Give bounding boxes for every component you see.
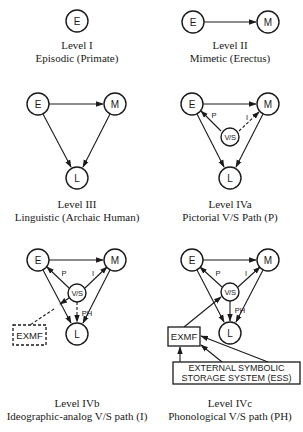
edge-exmf-to-vs [184,297,221,327]
svg-text:E: E [189,255,196,266]
svg-text:E: E [35,255,42,266]
node-e: E [27,93,49,115]
node-m: M [257,93,279,115]
svg-text:M: M [264,255,272,266]
panel-subtitle: Phonological V/S path (PH) [168,410,292,423]
svg-text:M: M [111,99,119,110]
node-e: E [181,249,203,271]
panel-level-3: E M L Level III Linguistic (Archaic Huma… [15,93,140,224]
edge-label-p: P [215,269,220,278]
svg-text:V/S: V/S [71,289,82,298]
node-e: E [27,249,49,271]
panel-title: Level I [61,39,93,51]
exmf-box-dashed: EXMF [13,325,46,345]
svg-text:M: M [264,17,272,28]
svg-text:L: L [227,173,233,184]
panel-title: Level IVb [55,397,100,409]
edge-label-p: P [61,269,66,278]
panel-title: Level III [58,198,97,210]
svg-text:M: M [264,99,272,110]
panel-subtitle: Linguistic (Archaic Human) [15,211,140,224]
node-m: M [104,93,126,115]
node-m: M [104,249,126,271]
edge-label-i: I [245,269,247,278]
panel-level-4a: P I E M V/S L Level IVa Pictorial V/S Pa… [181,93,279,224]
edge-label-i: I [92,269,94,278]
svg-text:EXMF: EXMF [16,330,43,341]
svg-text:E: E [189,99,196,110]
panel-title: Level IVc [208,397,252,409]
node-vs: V/S [221,128,239,146]
panel-level-2: E M Level II Mimetic (Erectus) [182,11,279,65]
edge-e-to-l [197,114,224,167]
panel-subtitle: Ideographic-analog V/S path (I) [7,410,148,423]
edge-label-ph: PH [235,306,245,315]
edge-ess-to-exmf-2 [201,345,222,362]
edge-label-i: I [246,113,248,122]
edge-exmf-link [30,309,54,325]
edge-label-p: P [211,111,216,120]
edge-e-to-l [43,114,71,167]
node-l: L [219,167,241,189]
panel-level-4b: P I PH E M V/S L EXMF Level IVb Ideograp… [7,249,148,423]
svg-text:M: M [111,255,119,266]
node-m: M [257,249,279,271]
svg-text:E: E [35,99,42,110]
svg-text:V/S: V/S [224,133,235,142]
svg-text:V/S: V/S [224,288,235,297]
node-l: L [66,167,88,189]
edge-label-ph: PH [82,309,92,318]
svg-text:STORAGE SYSTEM (ESS): STORAGE SYSTEM (ESS) [182,373,292,383]
node-e: E [182,11,204,33]
svg-text:E: E [190,17,197,28]
edge-vs-to-exmf-head [60,298,69,304]
edge-m-to-l [236,114,263,167]
node-e: E [66,10,88,32]
svg-text:EXTERNAL SYMBOLIC: EXTERNAL SYMBOLIC [188,363,285,373]
node-l: L [66,323,88,345]
panel-title: Level II [212,39,247,51]
node-m: M [257,11,279,33]
edge-e-to-l [43,270,71,323]
panel-subtitle: Mimetic (Erectus) [190,52,271,65]
panel-subtitle: Episodic (Primate) [36,52,119,65]
edge-vs-to-m [85,267,107,288]
node-l: L [219,322,241,344]
panel-title: Level IVa [208,198,251,210]
node-vs: V/S [68,284,86,302]
svg-text:L: L [74,329,80,340]
memory-levels-diagram: E Level I Episodic (Primate) E M Level I… [0,0,303,432]
panel-level-1: E Level I Episodic (Primate) [36,10,119,65]
svg-text:L: L [74,173,80,184]
svg-text:EXMF: EXMF [171,331,198,342]
svg-text:E: E [74,16,81,27]
edge-vs-to-m [238,267,260,287]
panel-subtitle: Pictorial V/S Path (P) [182,211,278,224]
edge-m-to-l [83,114,110,167]
node-e: E [181,93,203,115]
panel-level-4c: P I PH E M V/S L EXMF EXTERNAL SYMBOLIC [168,249,300,423]
svg-text:L: L [227,328,233,339]
node-vs: V/S [221,283,239,301]
ess-box: EXTERNAL SYMBOLIC STORAGE SYSTEM (ESS) [173,362,300,384]
exmf-box: EXMF [168,327,200,346]
